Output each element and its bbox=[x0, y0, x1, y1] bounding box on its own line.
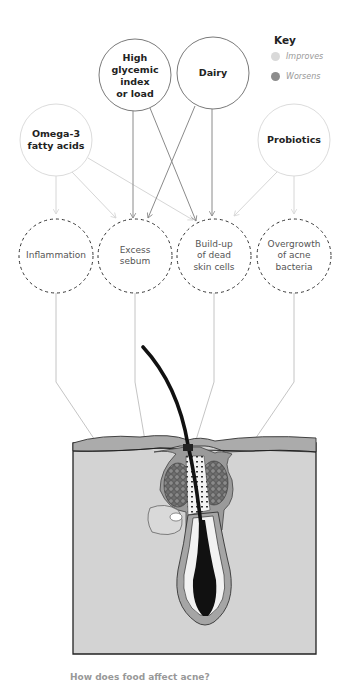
factor-label-probiotics: Probiotics bbox=[258, 118, 330, 162]
effect-label-buildup: Build-upof deadskin cells bbox=[176, 230, 252, 282]
pointer-buildup bbox=[196, 293, 214, 440]
worsens-swatch-icon bbox=[271, 72, 280, 81]
worsens-connections bbox=[133, 106, 212, 221]
effect-label-inflammation: Inflammation bbox=[18, 234, 94, 278]
legend-label-improves: Improves bbox=[286, 52, 323, 61]
legend-item-worsens: Worsens bbox=[271, 72, 320, 81]
acne-diet-diagram bbox=[0, 0, 346, 683]
connection-omega3-buildup bbox=[88, 158, 193, 220]
effect-label-sebum: Excesssebum bbox=[97, 234, 173, 278]
connection-glycemic-buildup bbox=[150, 108, 196, 221]
factor-label-omega3: Omega-3fatty acids bbox=[20, 118, 92, 162]
effect-label-bacteria: Overgrowthof acnebacteria bbox=[256, 230, 332, 282]
legend-label-worsens: Worsens bbox=[286, 72, 320, 81]
factor-label-dairy: Dairy bbox=[177, 51, 249, 95]
connection-probiotics-buildup bbox=[234, 172, 277, 216]
connection-omega3-sebum bbox=[72, 172, 116, 218]
improves-swatch-icon bbox=[271, 52, 280, 61]
factor-label-glycemic: Highglycemicindexor load bbox=[99, 40, 171, 112]
diagram-caption: How does food affect acne? bbox=[70, 672, 210, 682]
improves-connections bbox=[56, 158, 294, 220]
legend-title: Key bbox=[274, 34, 296, 46]
skin-cross-section bbox=[73, 347, 316, 654]
legend-item-improves: Improves bbox=[271, 52, 323, 61]
